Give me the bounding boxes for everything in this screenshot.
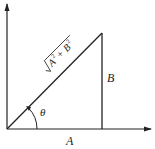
hypotenuse-label: A 2 + B 2	[40, 35, 78, 73]
vertical-side-label: B	[107, 71, 115, 85]
angle-label: θ	[40, 106, 46, 118]
horizontal-side-label: A	[65, 134, 74, 148]
triangle-diagram: θ B A A 2 + B 2	[0, 0, 155, 149]
angle-arc	[29, 108, 38, 129]
hypotenuse-line	[7, 33, 102, 129]
